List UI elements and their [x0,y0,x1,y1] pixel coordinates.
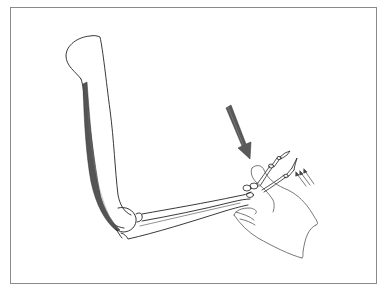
force-arrow-icon [226,105,251,159]
figure-canvas [0,0,386,291]
examiner-hand [234,166,318,258]
forearm-bones [116,192,251,239]
motion-arrows-icon [296,169,314,186]
arm-illustration [0,0,386,291]
